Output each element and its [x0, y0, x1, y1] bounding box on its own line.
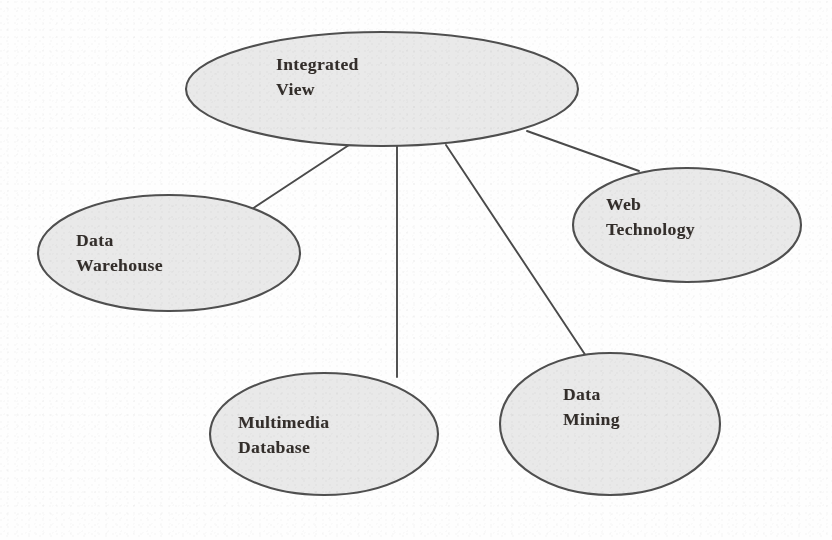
edge-integrated-view-to-data-mining — [446, 145, 586, 356]
edges-layer — [252, 131, 639, 377]
node-integrated-view[interactable] — [186, 32, 578, 146]
node-multimedia-database[interactable] — [210, 373, 438, 495]
node-data-warehouse[interactable] — [38, 195, 300, 311]
edge-integrated-view-to-web-technology — [527, 131, 639, 171]
node-data-mining[interactable] — [500, 353, 720, 495]
edge-integrated-view-to-data-warehouse — [252, 145, 349, 209]
nodes-layer — [38, 32, 801, 495]
diagram-svg — [0, 0, 832, 540]
node-web-technology[interactable] — [573, 168, 801, 282]
diagram-canvas: IntegratedViewDataWarehouseWebTechnology… — [0, 0, 832, 540]
